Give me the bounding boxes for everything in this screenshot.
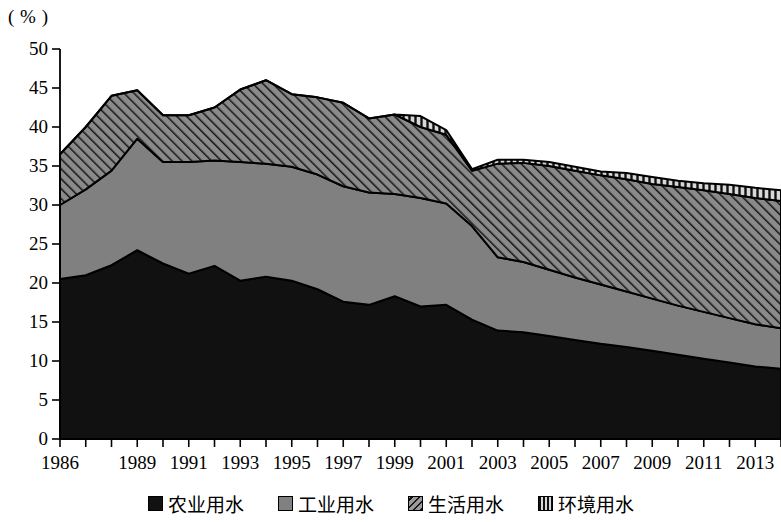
legend-label: 生活用水 [428, 490, 504, 517]
chart-legend: 农业用水工业用水生活用水环境用水 [0, 490, 781, 517]
legend-swatch-diagonal-hatch-icon [408, 496, 423, 511]
legend-item[interactable]: 农业用水 [148, 490, 244, 517]
legend-item[interactable]: 生活用水 [408, 490, 504, 517]
legend-item[interactable]: 工业用水 [278, 490, 374, 517]
series-areas [60, 80, 781, 439]
legend-label: 环境用水 [558, 490, 634, 517]
legend-label: 工业用水 [298, 490, 374, 517]
legend-label: 农业用水 [168, 490, 244, 517]
legend-swatch-solid-gray-icon [278, 496, 293, 511]
legend-swatch-vertical-hatch-icon [538, 496, 553, 511]
plot-area [0, 0, 781, 522]
stacked-area-chart: ( % ) 05101520253035404550 1986198919911… [0, 0, 781, 522]
legend-item[interactable]: 环境用水 [538, 490, 634, 517]
legend-swatch-solid-black-icon [148, 496, 163, 511]
